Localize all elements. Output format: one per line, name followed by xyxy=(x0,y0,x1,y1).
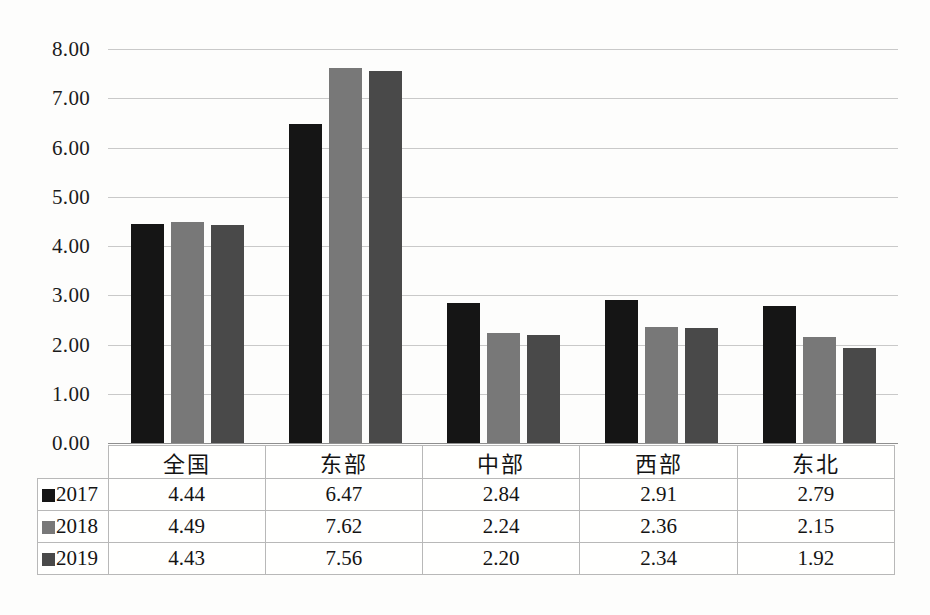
table-header-row: 全国东部中部西部东北 xyxy=(38,446,895,479)
y-axis-tick-label: 3.00 xyxy=(0,283,90,308)
bar xyxy=(289,124,322,443)
x-axis-line xyxy=(108,443,898,444)
table-cell: 7.56 xyxy=(265,543,422,575)
y-axis-tick-label: 8.00 xyxy=(0,37,90,62)
bar xyxy=(843,348,876,443)
table-cell: 6.47 xyxy=(265,479,422,511)
table-row: 20194.437.562.202.341.92 xyxy=(38,543,895,575)
bar xyxy=(605,300,638,443)
table-column-header: 东部 xyxy=(265,446,422,479)
legend-series-label: 2018 xyxy=(56,514,98,538)
bar xyxy=(369,71,402,443)
legend-entry[interactable]: 2018 xyxy=(38,511,109,543)
bar xyxy=(685,328,718,443)
table-corner-cell xyxy=(38,446,109,479)
legend-swatch-icon xyxy=(42,521,55,534)
bar xyxy=(527,335,560,443)
legend-entry[interactable]: 2019 xyxy=(38,543,109,575)
table-cell: 2.36 xyxy=(580,511,737,543)
bar xyxy=(803,337,836,443)
table-cell: 2.20 xyxy=(423,543,580,575)
table-cell: 2.34 xyxy=(580,543,737,575)
plot-area xyxy=(108,49,898,443)
table-row: 20184.497.622.242.362.15 xyxy=(38,511,895,543)
table-cell: 4.43 xyxy=(108,543,265,575)
bar xyxy=(211,225,244,443)
y-axis-tick-label: 1.00 xyxy=(0,381,90,406)
bar xyxy=(487,333,520,443)
bar-group xyxy=(424,49,582,443)
legend-swatch-icon xyxy=(42,553,55,566)
y-axis-tick-label: 6.00 xyxy=(0,135,90,160)
bar-group xyxy=(108,49,266,443)
table-column-header: 东北 xyxy=(737,446,894,479)
table-cell: 2.15 xyxy=(737,511,894,543)
chart-page: 8.007.006.005.004.003.002.001.000.00 全国东… xyxy=(0,0,930,615)
table-column-header: 全国 xyxy=(108,446,265,479)
y-axis-tick-label: 7.00 xyxy=(0,86,90,111)
bar xyxy=(329,68,362,443)
y-axis-tick-labels: 8.007.006.005.004.003.002.001.000.00 xyxy=(0,49,100,443)
table-column-header: 西部 xyxy=(580,446,737,479)
bar xyxy=(447,303,480,443)
data-table: 全国东部中部西部东北20174.446.472.842.912.7920184.… xyxy=(37,445,895,575)
table-cell: 2.84 xyxy=(423,479,580,511)
bar-group xyxy=(740,49,898,443)
legend-series-label: 2017 xyxy=(56,482,98,506)
y-axis-tick-label: 5.00 xyxy=(0,184,90,209)
table-cell: 4.44 xyxy=(108,479,265,511)
bar xyxy=(171,222,204,443)
bar xyxy=(131,224,164,443)
bar xyxy=(645,327,678,443)
bar xyxy=(763,306,796,443)
legend-entry[interactable]: 2017 xyxy=(38,479,109,511)
table-cell: 4.49 xyxy=(108,511,265,543)
table-cell: 2.79 xyxy=(737,479,894,511)
table-row: 20174.446.472.842.912.79 xyxy=(38,479,895,511)
bar-group xyxy=(266,49,424,443)
legend-swatch-icon xyxy=(42,489,55,502)
y-axis-tick-label: 4.00 xyxy=(0,234,90,259)
table-cell: 7.62 xyxy=(265,511,422,543)
table-cell: 1.92 xyxy=(737,543,894,575)
legend-series-label: 2019 xyxy=(56,546,98,570)
table-cell: 2.24 xyxy=(423,511,580,543)
y-axis-tick-label: 2.00 xyxy=(0,332,90,357)
table-column-header: 中部 xyxy=(423,446,580,479)
table-cell: 2.91 xyxy=(580,479,737,511)
bar-group xyxy=(582,49,740,443)
